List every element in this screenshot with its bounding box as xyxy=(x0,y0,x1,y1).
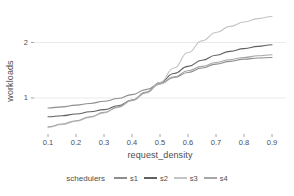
x-axis-title: request_density xyxy=(34,150,286,160)
x-tick-label: 0.5 xyxy=(149,138,171,147)
x-tick-label: 0.1 xyxy=(37,138,59,147)
x-tick-label: 0.3 xyxy=(93,138,115,147)
y-tick-label: 1 xyxy=(14,93,28,102)
legend-key-s2 xyxy=(144,177,157,179)
legend-item-s1[interactable]: s1 xyxy=(114,174,138,183)
legend-label-s1: s1 xyxy=(130,174,138,183)
legend-key-s4 xyxy=(204,177,217,179)
legend-key-s3 xyxy=(174,177,187,179)
legend-title: schedulers xyxy=(66,174,105,183)
legend: schedulers s1s2s3s4 xyxy=(0,168,294,188)
legend-items: s1s2s3s4 xyxy=(114,174,228,183)
legend-item-s2[interactable]: s2 xyxy=(144,174,168,183)
panel-rect xyxy=(34,12,286,134)
legend-label-s2: s2 xyxy=(160,174,168,183)
legend-label-s3: s3 xyxy=(190,174,198,183)
legend-label-s4: s4 xyxy=(220,174,228,183)
y-axis-title: workloads xyxy=(5,50,15,112)
plot-canvas xyxy=(0,0,294,196)
x-tick-label: 0.4 xyxy=(121,138,143,147)
y-tick-label: 2 xyxy=(14,38,28,47)
panel-background xyxy=(34,12,286,134)
x-tick-label: 0.6 xyxy=(177,138,199,147)
x-tick-label: 0.2 xyxy=(65,138,87,147)
x-tick-label: 0.9 xyxy=(261,138,283,147)
legend-item-s4[interactable]: s4 xyxy=(204,174,228,183)
chart-figure: workloads request_density 0.10.20.30.40.… xyxy=(0,0,294,196)
x-tick-label: 0.8 xyxy=(233,138,255,147)
x-tick-label: 0.7 xyxy=(205,138,227,147)
legend-key-s1 xyxy=(114,177,127,179)
legend-item-s3[interactable]: s3 xyxy=(174,174,198,183)
